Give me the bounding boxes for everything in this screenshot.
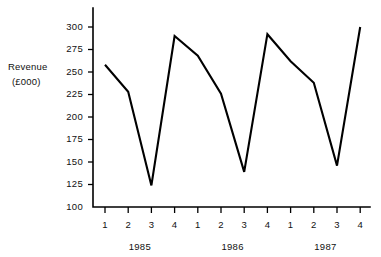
y-axis-tick-label: 275 bbox=[66, 43, 83, 54]
revenue-line-chart: Revenue (£000) 1001251501752002252502753… bbox=[0, 0, 381, 257]
y-axis-tick-label: 300 bbox=[66, 21, 83, 32]
x-axis-year-label: 1985 bbox=[129, 241, 151, 252]
y-axis-tick-label: 125 bbox=[66, 178, 83, 189]
y-axis-title-line-2: (£000) bbox=[12, 76, 41, 87]
y-axis-tick-label: 100 bbox=[66, 201, 83, 212]
y-axis-tick-label: 200 bbox=[66, 111, 83, 122]
x-axis-tick-label: 1 bbox=[102, 219, 107, 230]
y-axis-title: Revenue (£000) bbox=[8, 61, 47, 87]
y-axis-tick-labels: 100125150175200225250275300 bbox=[66, 21, 83, 212]
x-axis-year-label: 1986 bbox=[221, 241, 243, 252]
chart-canvas: Revenue (£000) 1001251501752002252502753… bbox=[0, 0, 381, 257]
x-axis-tick-label: 1 bbox=[195, 219, 200, 230]
x-axis-tick-label: 2 bbox=[218, 219, 223, 230]
x-axis-tick-label: 4 bbox=[265, 219, 270, 230]
chart-axes bbox=[93, 8, 370, 207]
x-axis-tick-label: 2 bbox=[311, 219, 316, 230]
x-axis-year-labels: 198519861987 bbox=[129, 241, 337, 252]
revenue-series-line bbox=[105, 27, 360, 185]
y-axis-tick-label: 175 bbox=[66, 133, 83, 144]
x-axis-tick-label: 4 bbox=[172, 219, 177, 230]
y-axis-title-line-1: Revenue bbox=[8, 61, 47, 72]
y-axis-tick-label: 150 bbox=[66, 156, 83, 167]
x-axis-tick-label: 4 bbox=[357, 219, 362, 230]
x-axis-tick-label: 3 bbox=[241, 219, 246, 230]
x-axis-tick-label: 1 bbox=[288, 219, 293, 230]
y-axis-tick-label: 225 bbox=[66, 88, 83, 99]
x-axis-year-label: 1987 bbox=[314, 241, 336, 252]
x-axis-tick-label: 3 bbox=[149, 219, 154, 230]
x-axis-tick-label: 3 bbox=[334, 219, 339, 230]
x-axis-tick-label: 2 bbox=[125, 219, 130, 230]
y-axis-tick-label: 250 bbox=[66, 66, 83, 77]
x-axis-tick-marks bbox=[105, 207, 360, 213]
x-axis-tick-labels: 123412341234 bbox=[102, 219, 363, 230]
